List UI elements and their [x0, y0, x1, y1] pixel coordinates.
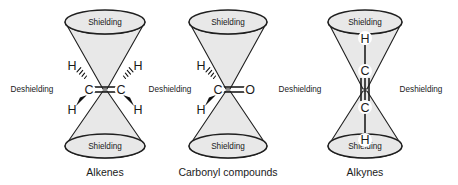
deshielding-label-far-left: Deshielding: [11, 85, 54, 94]
alkenes-hashed-bond-upper-right: [124, 68, 134, 79]
figure-canvas: Shielding Shielding: [0, 0, 458, 185]
carbonyl-carbon-label: C: [213, 83, 222, 97]
anisotropy-cone-diagram: Shielding Shielding: [0, 0, 458, 185]
carbonyl-caption: Carbonyl compounds: [178, 166, 277, 178]
panel-alkynes: Shielding Shielding H C C H: [328, 10, 402, 178]
alkenes-caption: Alkenes: [86, 166, 123, 178]
deshielding-label-mid-left: Deshielding: [149, 85, 192, 94]
alkenes-hydrogen-lower-left-label: H: [67, 103, 76, 117]
alkenes-shielding-bottom-label: Shielding: [88, 142, 122, 151]
carbonyl-shielding-bottom-label: Shielding: [211, 142, 245, 151]
alkenes-shielding-top-label: Shielding: [88, 18, 122, 27]
deshielding-label-mid-right: Deshielding: [279, 85, 322, 94]
carbonyl-shielding-top-label: Shielding: [211, 18, 245, 27]
alkynes-caption: Alkynes: [347, 166, 384, 178]
panel-carbonyl: Shielding Shielding C O H H: [178, 10, 277, 178]
alkenes-left-carbon-label: C: [84, 83, 93, 97]
carbonyl-hashed-bond-upper-left: [206, 68, 216, 79]
alkynes-carbon-top-label: C: [360, 64, 369, 78]
alkynes-hydrogen-top-label: H: [360, 32, 369, 46]
carbonyl-oxygen-label: O: [245, 83, 255, 97]
carbonyl-hydrogen-lower-left-label: H: [196, 103, 205, 117]
alkynes-shielding-top-label: Shielding: [348, 18, 382, 27]
alkenes-hydrogen-upper-right-label: H: [133, 59, 142, 73]
deshielding-label-far-right: Deshielding: [400, 85, 443, 94]
alkynes-carbon-bottom-label: C: [360, 101, 369, 115]
alkenes-hydrogen-lower-right-label: H: [133, 103, 142, 117]
alkenes-hashed-bond-upper-left: [77, 68, 87, 79]
alkenes-right-carbon-label: C: [116, 83, 125, 97]
carbonyl-hydrogen-upper-left-label: H: [196, 59, 205, 73]
panel-alkenes: Shielding Shielding: [65, 10, 145, 178]
alkynes-hydrogen-bottom-label: H: [360, 133, 369, 147]
alkenes-hydrogen-upper-left-label: H: [67, 59, 76, 73]
